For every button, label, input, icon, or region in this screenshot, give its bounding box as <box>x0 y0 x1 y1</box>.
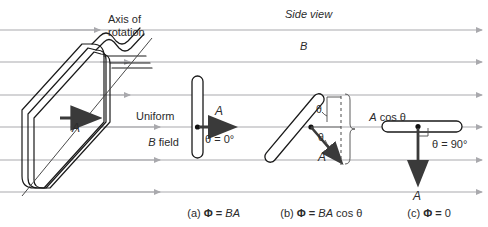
caption-b-expr-tail: cos θ <box>333 207 362 219</box>
panel-b-projection-label: A cos θ <box>357 98 406 136</box>
panel-b-projection-rest: cos θ <box>377 111 406 123</box>
panel-a-area-vector-label: A <box>215 105 223 119</box>
panel-b-angle-arc-upper <box>322 112 327 116</box>
physics-figure-magnetic-flux: Axis of rotation Side view B Uniform B f… <box>0 0 488 227</box>
panel-b-projection-a-italic: A <box>369 111 376 123</box>
uniform-field-label-line1: Uniform <box>136 110 175 123</box>
caption-c-flux: Φ = <box>423 207 445 219</box>
uniform-field-rest: field <box>156 136 179 148</box>
panel-a-angle-label: θ = 0° <box>205 133 234 146</box>
caption-b-index: (b) <box>280 207 293 219</box>
caption-panel-a: (a) Φ = BA <box>175 194 240 227</box>
caption-b-expr: BA <box>318 207 333 219</box>
caption-a-expr: BA <box>225 207 240 219</box>
panel-c-angle-label: θ = 90° <box>432 138 467 151</box>
axis-of-rotation-label-line1: Axis of <box>108 13 141 26</box>
panel-b-area-vector-label: A <box>318 151 326 165</box>
caption-a-flux: Φ = <box>204 207 226 219</box>
panel-b-angle-label-lower: θ <box>318 131 324 143</box>
caption-a-index: (a) <box>187 207 200 219</box>
caption-panel-b: (b) Φ = BA cos θ <box>268 194 362 227</box>
side-view-title: Side view <box>285 8 332 21</box>
uniform-field-b-italic: B <box>148 136 155 148</box>
caption-c-expr: 0 <box>445 207 451 219</box>
panel-b-angle-label-upper: θ <box>316 103 322 115</box>
area-vector-left-label: A <box>72 122 80 136</box>
panel-a-loop <box>192 76 203 158</box>
caption-panel-c: (c) Φ = 0 <box>395 194 451 227</box>
perspective-coil-loop <box>22 28 152 188</box>
uniform-field-label-line2: B field <box>136 123 179 161</box>
caption-c-index: (c) <box>407 207 420 219</box>
field-symbol-label: B <box>300 40 307 53</box>
caption-b-flux: Φ = <box>297 207 319 219</box>
panel-b-brace <box>345 94 355 164</box>
axis-of-rotation-label-line2: rotation <box>108 26 145 39</box>
